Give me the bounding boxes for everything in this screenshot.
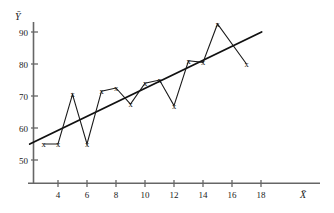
x-tick-label-6: 6 [85,190,90,200]
x-tick-label-4: 4 [56,190,61,200]
data-point-marker: x [85,139,90,149]
x-tick-label-8: 8 [114,190,119,200]
y-tick-label-70: 70 [19,92,29,102]
plot-canvas: 90 80 70 60 50 4 6 8 10 12 14 16 18 Ȳ X… [0,0,334,213]
y-tick-label-80: 80 [19,60,29,70]
data-point-markers: x x x x x x x x x x x x x x [41,19,249,149]
x-tick-label-12: 12 [170,190,179,200]
y-tick-label-60: 60 [19,124,29,134]
scatter-regression-chart: 90 80 70 60 50 4 6 8 10 12 14 16 18 Ȳ X… [0,0,334,213]
x-tick-label-16: 16 [228,190,238,200]
y-axis-label: Ȳ [15,11,22,22]
y-tick-label-90: 90 [19,28,29,38]
x-tick-label-10: 10 [141,190,151,200]
y-tick-label-50: 50 [19,156,29,166]
data-point-marker: x [244,59,249,69]
x-axis-label: X̄ [299,189,307,200]
data-point-marker: x [114,83,119,93]
x-tick-label-14: 14 [199,190,209,200]
data-point-marker: x [172,101,177,111]
data-point-marker: x [70,89,75,99]
data-point-marker: x [56,139,61,149]
x-tick-label-18: 18 [257,190,267,200]
